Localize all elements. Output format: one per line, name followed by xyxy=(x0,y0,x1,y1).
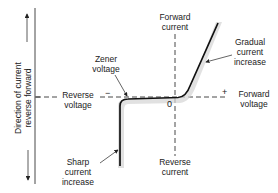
forward-voltage-label: Forward voltage xyxy=(232,89,276,109)
characteristic-curve xyxy=(120,23,218,166)
zener-diode-diagram: Direction of current reverse forward For… xyxy=(0,0,278,193)
sharp-increase-pointer xyxy=(100,150,118,163)
reverse-voltage-label: Reverse voltage xyxy=(58,90,98,110)
sharp-current-increase-label: Sharp current increase xyxy=(56,157,100,187)
direction-of-current-label: Direction of current reverse forward xyxy=(13,53,33,143)
gradual-current-increase-label: Gradual current increase xyxy=(228,37,272,67)
negative-sign: − xyxy=(105,88,110,98)
zener-voltage-pointer xyxy=(115,75,127,96)
positive-sign: + xyxy=(222,87,227,97)
origin-label: 0 xyxy=(167,99,172,109)
reverse-current-label: Reverse current xyxy=(153,157,197,177)
curve-shading xyxy=(118,22,222,168)
forward-current-label: Forward current xyxy=(152,12,198,32)
zener-voltage-label: Zener voltage xyxy=(86,54,126,74)
